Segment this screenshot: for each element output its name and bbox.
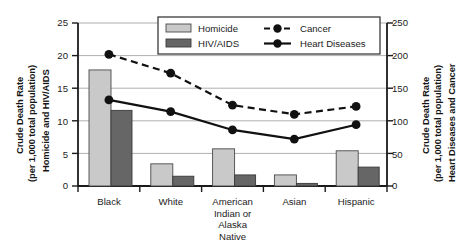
- marker-heart-hispanic: [352, 120, 361, 129]
- bar-homicide-white: [151, 164, 173, 186]
- bar-hiv-black: [111, 110, 132, 186]
- bar-hiv-hispanic: [358, 167, 379, 186]
- marker-heart-american-indian: [228, 126, 237, 135]
- marker-cancer-american-indian: [228, 101, 237, 110]
- legend-swatch-hiv-aids: [166, 39, 191, 47]
- legend-label-heart-diseases: Heart Diseases: [300, 38, 382, 49]
- category-label-american-indian-or-alaska-native: American Indian or Alaska Native: [202, 196, 264, 242]
- legend-marker-heart-diseases: [273, 39, 281, 47]
- category-label-white: White: [140, 196, 202, 208]
- bar-hiv-white: [173, 176, 194, 186]
- marker-cancer-white: [166, 69, 175, 78]
- legend-label-hiv-aids: HIV/AIDS: [198, 38, 268, 49]
- marker-cancer-hispanic: [352, 102, 361, 111]
- category-label-hispanic: Hispanic: [325, 196, 387, 208]
- category-label-asian: Asian: [263, 196, 325, 208]
- bar-hiv-american-indian: [235, 175, 256, 186]
- legend-label-homicide: Homicide: [198, 23, 268, 34]
- category-label-black: Black: [78, 196, 140, 208]
- markers-cancer: [105, 50, 361, 119]
- marker-heart-white: [166, 107, 175, 116]
- marker-cancer-asian: [290, 110, 299, 119]
- legend-swatch-homicide: [166, 24, 191, 32]
- bar-homicide-black: [89, 70, 111, 186]
- bar-hiv-asian: [296, 183, 317, 186]
- bar-homicide-asian: [274, 175, 296, 186]
- marker-heart-asian: [290, 135, 299, 144]
- marker-heart-black: [105, 96, 114, 105]
- legend-label-cancer: Cancer: [300, 23, 380, 34]
- bar-homicide-hispanic: [336, 151, 358, 186]
- bar-homicide-american-indian: [213, 149, 235, 186]
- chart-container: Crude Death Rate (per 1,000 total popula…: [0, 0, 467, 248]
- marker-cancer-black: [105, 50, 114, 59]
- legend-marker-cancer: [273, 24, 281, 32]
